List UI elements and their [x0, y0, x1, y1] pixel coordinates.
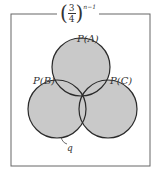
- diagram-canvas: P(A) P(B) P(C) q ( 3 4 ) n−1: [0, 0, 161, 171]
- fraction-denominator: 4: [69, 14, 75, 24]
- label-q: q: [67, 143, 73, 153]
- label-p-b: P(B): [32, 75, 55, 86]
- label-p-c: P(C): [109, 75, 132, 86]
- fraction-numerator: 3: [68, 4, 76, 14]
- fraction: 3 4: [68, 4, 76, 24]
- label-p-a: P(A): [76, 33, 99, 44]
- probability-title: ( 3 4 ) n−1: [57, 2, 99, 26]
- close-paren: ): [76, 2, 84, 24]
- exponent: n−1: [83, 3, 96, 10]
- open-paren: (: [60, 2, 68, 24]
